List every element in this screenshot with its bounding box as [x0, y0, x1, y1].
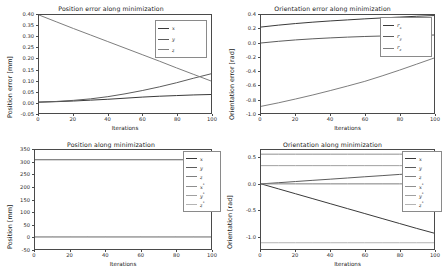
x-tick-label: 0 [258, 116, 261, 122]
legend-swatch [383, 25, 394, 26]
y-tick-label: 0.2 [222, 25, 256, 31]
x-tick-mark [260, 114, 261, 116]
legend-label: y [419, 165, 422, 171]
x-tick-mark [176, 250, 177, 252]
y-tick-label: -1.0 [222, 111, 256, 117]
legend-label: y [200, 165, 203, 171]
panel-orientation: Orientation along minimization Orientati… [222, 137, 443, 273]
legend-item[interactable]: x [405, 154, 439, 163]
panel-orientation-error: Orientation error along minimization Ori… [222, 0, 443, 137]
x-tick-mark [212, 114, 213, 116]
x-tick-label: 100 [430, 252, 440, 258]
y-tick-label: 50 [0, 222, 30, 228]
x-tick-mark [34, 250, 35, 252]
x-tick-label: 80 [397, 116, 404, 122]
legend-item[interactable]: x [158, 23, 204, 34]
legend-item[interactable]: z [405, 172, 439, 181]
legend-swatch [186, 195, 197, 196]
x-axis-label: Iterations [260, 261, 435, 267]
legend-label: z [419, 174, 422, 180]
y-tick-label: 300 [0, 159, 30, 165]
y-tick-label: 0.25 [0, 44, 34, 50]
x-tick-mark [105, 250, 106, 252]
y-tick-label: -0.5 [222, 207, 256, 213]
y-tick-label: 0.20 [0, 55, 34, 61]
legend-item[interactable]: ry [383, 31, 429, 42]
x-tick-label: 100 [430, 116, 440, 122]
x-tick-label: 20 [292, 116, 299, 122]
x-tick-mark [108, 114, 109, 116]
legend-swatch [186, 167, 197, 168]
x-tick-mark [260, 250, 261, 252]
legend-item[interactable]: y [405, 163, 439, 172]
x-tick-label: 80 [173, 252, 180, 258]
legend[interactable]: xyz [155, 20, 207, 58]
legend-label: z* [419, 201, 423, 208]
x-tick-label: 40 [102, 252, 109, 258]
x-tick-label: 60 [362, 116, 369, 122]
legend-label: ry [397, 33, 401, 41]
legend-label: x* [419, 183, 424, 190]
legend[interactable]: rxryrz [380, 17, 432, 57]
legend-swatch [186, 204, 197, 205]
legend-item[interactable]: z [158, 44, 204, 55]
legend-swatch [383, 36, 394, 37]
legend-item[interactable]: x* [186, 182, 218, 191]
x-tick-mark [70, 250, 71, 252]
legend-swatch [405, 195, 416, 196]
x-tick-mark [365, 114, 366, 116]
y-tick-label: 250 [0, 171, 30, 177]
y-tick-label: 0.00 [0, 100, 34, 106]
plot-title: Position along minimization [0, 141, 222, 148]
legend[interactable]: xyzx*y*z* [402, 151, 442, 212]
legend-label: x* [200, 183, 205, 190]
x-axis-label: Iterations [260, 125, 435, 131]
legend-swatch [405, 186, 416, 187]
legend-item[interactable]: y [158, 34, 204, 45]
legend-item[interactable]: z* [405, 200, 439, 209]
x-tick-label: 20 [292, 252, 299, 258]
y-tick-label: -0.05 [0, 111, 34, 117]
y-tick-label: -0.4 [222, 68, 256, 74]
legend-label: x [172, 25, 175, 31]
x-tick-label: 100 [207, 252, 217, 258]
y-tick-label: 0.05 [0, 89, 34, 95]
legend-label: y [172, 36, 175, 42]
y-tick-label: 100 [0, 209, 30, 215]
x-tick-label: 80 [397, 252, 404, 258]
y-tick-label: 350 [0, 146, 30, 152]
legend-swatch [405, 176, 416, 177]
legend-item[interactable]: y* [186, 191, 218, 200]
legend-swatch [158, 39, 169, 40]
y-tick-label: 0.40 [0, 11, 34, 17]
x-tick-mark [435, 114, 436, 116]
x-tick-mark [365, 250, 366, 252]
y-tick-label: -0.6 [222, 82, 256, 88]
legend-item[interactable]: z* [186, 200, 218, 209]
legend-item[interactable]: z [186, 172, 218, 181]
legend-swatch [186, 176, 197, 177]
legend-item[interactable]: x* [405, 182, 439, 191]
x-tick-mark [295, 114, 296, 116]
x-tick-label: 40 [327, 252, 334, 258]
legend-item[interactable]: y [186, 163, 218, 172]
y-tick-label: 200 [0, 184, 30, 190]
x-tick-label: 0 [258, 252, 261, 258]
y-tick-label: -1.0 [222, 234, 256, 240]
x-tick-mark [142, 114, 143, 116]
legend[interactable]: xyzx*y*z* [183, 151, 221, 212]
legend-label: x [419, 156, 422, 162]
legend-item[interactable]: rx [383, 20, 429, 31]
legend-item[interactable]: x [186, 154, 218, 163]
y-tick-label: -0.2 [222, 54, 256, 60]
y-tick-label: 0.30 [0, 33, 34, 39]
panel-position: Position along minimization Position [mm… [0, 137, 222, 273]
legend-swatch [158, 28, 169, 29]
plot-title: Orientation along minimization [222, 141, 443, 148]
legend-item[interactable]: y* [405, 191, 439, 200]
legend-swatch [186, 186, 197, 187]
series-line [261, 58, 434, 106]
legend-label: x [200, 156, 203, 162]
legend-item[interactable]: rz [383, 43, 429, 54]
x-tick-label: 20 [69, 116, 76, 122]
